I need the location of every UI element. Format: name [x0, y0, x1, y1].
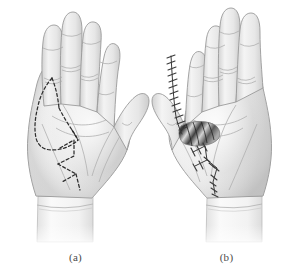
- figure-panel-a: (a): [0, 0, 151, 278]
- hand-illustration-b: [151, 0, 302, 248]
- forearm-cuff-a: [34, 196, 96, 245]
- forearm-cuff-b: [203, 196, 265, 245]
- panel-b-caption: (b): [151, 250, 302, 264]
- figure-panel-b: (b): [151, 0, 302, 278]
- panel-a-caption: (a): [0, 250, 151, 264]
- figure-container: (a): [0, 0, 302, 278]
- hand-illustration-a: [0, 0, 151, 248]
- exposed-tissue-b: [179, 121, 220, 146]
